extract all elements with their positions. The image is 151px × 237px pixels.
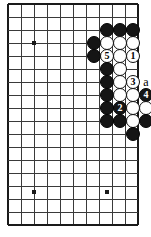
go-diagram: 51342 a — [0, 0, 151, 237]
star-point-lower-right — [105, 190, 109, 194]
star-point-upper-left — [32, 41, 36, 45]
board-marker-a: a — [139, 75, 151, 89]
star-point-lower-left — [32, 190, 36, 194]
go-stone-black[interactable] — [139, 114, 151, 128]
